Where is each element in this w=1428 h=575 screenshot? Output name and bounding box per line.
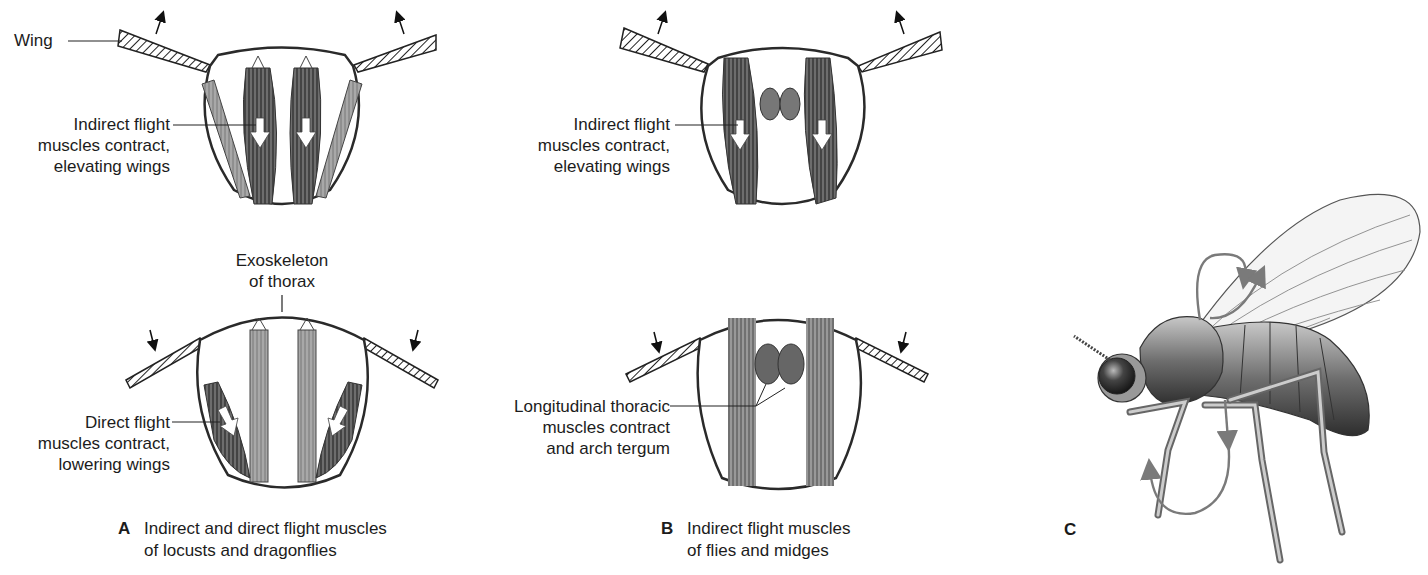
wing-up-arrow-icon <box>658 16 664 34</box>
right-wing <box>858 32 942 72</box>
wing-up-arrow-icon <box>156 16 162 34</box>
wing-label: Wing <box>14 30 53 51</box>
fly-illustration <box>1074 194 1420 560</box>
right-wing <box>354 35 436 72</box>
right-wing <box>852 338 928 382</box>
panel-a-bottom-diagram <box>126 295 438 488</box>
wing-up-arrow-icon <box>898 16 904 34</box>
longitudinal-muscle <box>778 344 804 384</box>
left-wing <box>126 338 205 388</box>
antenna <box>1074 336 1110 360</box>
wing-down-arrow-icon <box>654 332 658 348</box>
flight-muscle-figure <box>0 0 1428 575</box>
panel-c-letter: C <box>1064 520 1076 540</box>
panel-a-indirect-muscle-label: Indirect flight muscles contract, elevat… <box>38 114 170 177</box>
longitudinal-muscle-label: Longitudinal thoracic muscles contract a… <box>514 396 670 459</box>
left-wing <box>620 28 708 72</box>
panel-a-direct-muscle-label: Direct flight muscles contract, lowering… <box>38 412 170 475</box>
panel-b-indirect-muscle-label: Indirect flight muscles contract, elevat… <box>538 114 670 177</box>
compound-eye <box>1099 358 1135 394</box>
thorax-exoskeleton <box>698 320 861 489</box>
panel-a-caption: A Indirect and direct flight muscles of … <box>144 518 387 562</box>
wing-up-arrow-icon <box>398 16 404 34</box>
longitudinal-muscle <box>755 344 781 384</box>
longitudinal-muscle <box>760 88 780 120</box>
panel-a-letter: A <box>118 518 130 540</box>
left-wing <box>118 30 210 72</box>
panel-b-letter: B <box>661 518 673 540</box>
wing-down-arrow-icon <box>902 332 906 348</box>
exoskeleton-label: Exoskeleton of thorax <box>222 250 342 292</box>
right-wing <box>359 338 438 388</box>
panel-b-bottom-diagram <box>626 318 928 489</box>
wing-down-arrow-icon <box>414 330 418 346</box>
panel-b-caption: B Indirect flight muscles of flies and m… <box>687 518 850 562</box>
longitudinal-muscle <box>780 88 800 120</box>
wing-down-arrow-icon <box>150 330 154 346</box>
left-wing <box>626 338 704 382</box>
middle-leg <box>1205 405 1280 560</box>
